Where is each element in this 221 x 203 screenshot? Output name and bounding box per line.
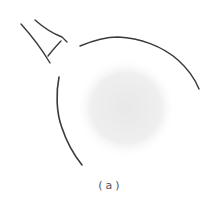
shaded-region bbox=[76, 58, 176, 158]
funnel-inner-line bbox=[48, 41, 61, 56]
funnel-left-line bbox=[21, 24, 50, 63]
funnel-right-line bbox=[35, 20, 67, 42]
figure-caption: (a) bbox=[0, 179, 221, 192]
sketch-diagram bbox=[0, 0, 221, 203]
